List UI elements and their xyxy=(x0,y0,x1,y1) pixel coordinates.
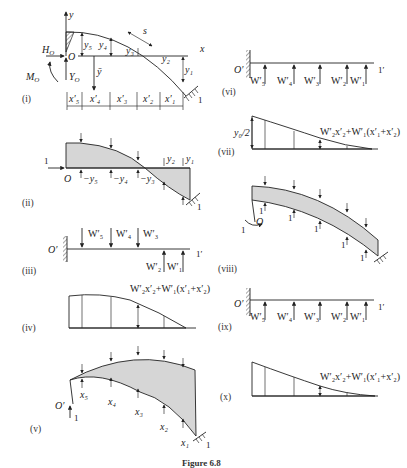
panel-vi: (vi) O′ 1′ W′₅ W′₄ W′₃ W′₂ W′₁ xyxy=(222,50,385,98)
svg-text:y₀/2: y₀/2 xyxy=(233,127,250,138)
panel-viii: (viii) O 1 1 1 1 1 1 xyxy=(218,176,388,275)
svg-text:1: 1 xyxy=(259,206,264,216)
svg-text:x₃: x₃ xyxy=(134,406,143,417)
svg-text:ȳ: ȳ xyxy=(96,66,102,77)
x-axis-label: x xyxy=(199,43,205,54)
svg-text:(iii): (iii) xyxy=(22,266,36,277)
svg-text:W′₂x′₂+W′₁(x′₁+x′₂): W′₂x′₂+W′₁(x′₁+x′₂) xyxy=(130,283,210,295)
svg-text:O: O xyxy=(256,216,263,227)
svg-text:x′₃: x′₃ xyxy=(116,93,128,104)
svg-text:W′₂x′₂+W′₁(x′₁+x′₂): W′₂x′₂+W′₁(x′₁+x′₂) xyxy=(320,371,400,383)
svg-text:W′₃: W′₃ xyxy=(143,228,158,239)
panel-vii: (vii) y₀/2 W′₂x′₂+W′₁(x′₁+x′₂) xyxy=(218,116,400,158)
moment-arrow xyxy=(50,62,58,82)
rigid-wedge xyxy=(66,32,74,52)
svg-text:W′₁: W′₁ xyxy=(350,75,365,86)
svg-text:W′₄: W′₄ xyxy=(277,75,293,86)
svg-text:1: 1 xyxy=(341,240,346,250)
svg-text:O′: O′ xyxy=(48,244,58,255)
svg-text:x₂: x₂ xyxy=(159,421,168,432)
svg-text:x′₅: x′₅ xyxy=(68,93,80,104)
svg-text:1: 1 xyxy=(197,202,202,212)
svg-text:1: 1 xyxy=(360,253,365,263)
svg-text:W′₂x′₂+W′₁(x′₁+x′₂): W′₂x′₂+W′₁(x′₁+x′₂) xyxy=(320,126,400,138)
svg-text:−y₅: −y₅ xyxy=(83,173,98,184)
svg-text:(x): (x) xyxy=(220,392,231,403)
svg-text:y₄: y₄ xyxy=(98,39,107,50)
svg-text:y₁: y₁ xyxy=(184,64,193,75)
shaded-area xyxy=(70,360,196,436)
svg-text:s: s xyxy=(143,25,147,36)
svg-text:x₄: x₄ xyxy=(107,396,116,407)
svg-text:(vii): (vii) xyxy=(218,147,234,158)
panel-iii: (iii) O′ 1′ W′₅ W′₄ W′₃ W′₂ W′₁ xyxy=(22,228,203,277)
figure-caption: Figure 6.8 xyxy=(182,458,221,468)
svg-text:(iv): (iv) xyxy=(22,323,36,334)
svg-text:y₂: y₂ xyxy=(166,153,175,164)
svg-text:W′₂: W′₂ xyxy=(331,75,346,86)
svg-text:1: 1 xyxy=(314,224,319,234)
panel-x: (x) W′₂x′₂+W′₁(x′₁+x′₂) xyxy=(220,362,400,403)
svg-text:W′₅: W′₅ xyxy=(88,228,103,239)
svg-text:y₃: y₃ xyxy=(125,45,134,56)
panel-iv: (iv) W′₂x′₂+W′₁(x′₁+x′₂) xyxy=(22,283,210,334)
panel-ii: (ii) 1 O −y₅ −y₄ −y₃ y₂ y₁ 1 xyxy=(22,133,202,212)
svg-text:W′₂: W′₂ xyxy=(331,311,346,322)
svg-text:1′: 1′ xyxy=(378,302,385,312)
svg-text:O′: O′ xyxy=(55,400,65,411)
svg-text:−y₄: −y₄ xyxy=(113,173,128,184)
svg-text:W′₁: W′₁ xyxy=(350,311,365,322)
svg-text:x′₄: x′₄ xyxy=(89,93,101,104)
svg-text:1′: 1′ xyxy=(378,65,385,75)
svg-text:W′₃: W′₃ xyxy=(304,75,319,86)
svg-text:O′: O′ xyxy=(234,64,244,75)
svg-text:O′: O′ xyxy=(234,298,244,309)
svg-text:1: 1 xyxy=(198,95,203,105)
y-axis-label: y xyxy=(68,9,74,20)
svg-text:1: 1 xyxy=(206,440,211,450)
svg-text:y₂: y₂ xyxy=(161,53,170,64)
panel-v: (v) 1 O′ x₅ x₄ x₃ x₂ x₁ 1 xyxy=(30,346,211,450)
svg-text:1′: 1′ xyxy=(196,249,203,259)
svg-text:(vi): (vi) xyxy=(222,87,236,98)
svg-text:(ix): (ix) xyxy=(218,322,232,333)
svg-text:x₅: x₅ xyxy=(79,389,88,400)
svg-text:W′₁: W′₁ xyxy=(167,261,182,272)
svg-text:W′₄: W′₄ xyxy=(116,228,132,239)
svg-text:1: 1 xyxy=(241,225,246,235)
svg-text:(v): (v) xyxy=(30,424,41,435)
svg-text:x′₂: x′₂ xyxy=(142,93,154,104)
svg-text:1: 1 xyxy=(44,156,49,166)
svg-text:MO: MO xyxy=(25,71,39,84)
svg-text:W′₄: W′₄ xyxy=(277,311,293,322)
fixed-wall-icon xyxy=(246,50,250,78)
svg-text:W′₃: W′₃ xyxy=(304,311,319,322)
svg-text:W′₅: W′₅ xyxy=(250,311,265,322)
svg-text:(ii): (ii) xyxy=(22,198,34,209)
svg-text:O: O xyxy=(64,173,71,184)
svg-text:y₅: y₅ xyxy=(83,39,92,50)
panel-i: (i) y x 1 O HO YO MO y₅ xyxy=(22,9,205,110)
svg-text:1: 1 xyxy=(288,213,293,223)
fixed-wall-icon xyxy=(63,236,67,262)
shaded-strip xyxy=(252,186,378,256)
figure-canvas: (i) y x 1 O HO YO MO y₅ xyxy=(0,0,407,468)
positive-area xyxy=(66,143,145,168)
svg-text:x₁: x₁ xyxy=(180,437,189,448)
svg-text:O: O xyxy=(68,51,75,62)
svg-text:W′₂: W′₂ xyxy=(146,261,161,272)
panel-ix: (ix) O′ 1′ W′₅ W′₄ W′₃ W′₂ W′₁ xyxy=(218,288,385,333)
panel-label-i: (i) xyxy=(22,94,31,105)
svg-text:y₁: y₁ xyxy=(185,153,194,164)
svg-text:YO: YO xyxy=(69,71,80,84)
svg-text:−y₃: −y₃ xyxy=(140,173,155,184)
svg-text:1: 1 xyxy=(74,413,79,423)
svg-text:HO: HO xyxy=(41,44,54,57)
svg-text:W′₅: W′₅ xyxy=(250,75,265,86)
svg-text:x′₁: x′₁ xyxy=(164,93,175,104)
fixed-support-icon xyxy=(184,86,198,101)
svg-text:(viii): (viii) xyxy=(218,264,237,275)
